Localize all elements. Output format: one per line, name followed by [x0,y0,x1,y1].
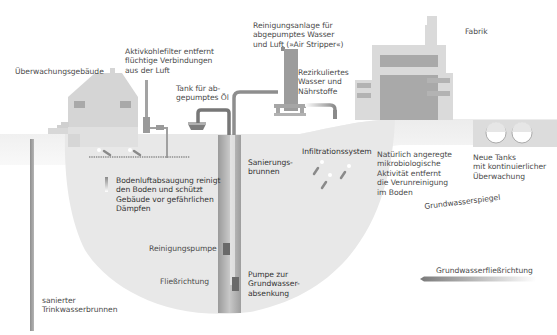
label-flow-direction: Fließrichtung [160,277,209,286]
groundwater-flow-arrow [420,277,536,282]
remediation-diagram: Überwachungsgebäude Aktivkohlefilter ent… [0,0,557,335]
drinking-well-graphic [30,139,34,331]
label-infiltration-system: Infiltrationssystem [302,147,372,156]
label-remediation-well: Sanierungs- brunnen [248,158,293,177]
label-cleaning-pump: Reinigungspumpe [149,244,217,253]
label-recirculated-water: Rezirkuliertes Wasser und Nährstoffe [298,68,349,96]
label-new-tanks: Neue Tanks mit kontinuierlicher Überwach… [473,153,546,181]
recirculation-pipe-graphic [305,105,337,119]
label-activated-carbon-filter: Aktivkohlefilter entfernt flüchtige Verb… [125,47,214,75]
label-factory: Fabrik [465,27,487,36]
label-dewatering-pump: Pumpe zur Grundwasser- absenkung [248,270,300,298]
oil-tank-graphic [188,110,229,136]
label-microbial-activity: Natürlich angeregte mikrobiologische Akt… [377,150,452,197]
label-air-stripper: Reinigungsanlage für abgepumptes Wasser … [253,21,343,49]
label-monitoring-building: Überwachungsgebäude [15,67,104,76]
label-remediated-drinking-well: sanierter Trinkwasserbrunnen [42,296,118,315]
factory-graphic [355,16,453,120]
label-oil-tank: Tank für ab- gepumptes Öl [176,84,229,103]
label-soil-vapor-extraction: Bodenluftabsaugung reinigt den Boden und… [116,176,220,214]
label-groundwater-flow-direction: Grundwasserfließrichtung [436,266,533,275]
new-tanks-graphic [473,120,557,147]
